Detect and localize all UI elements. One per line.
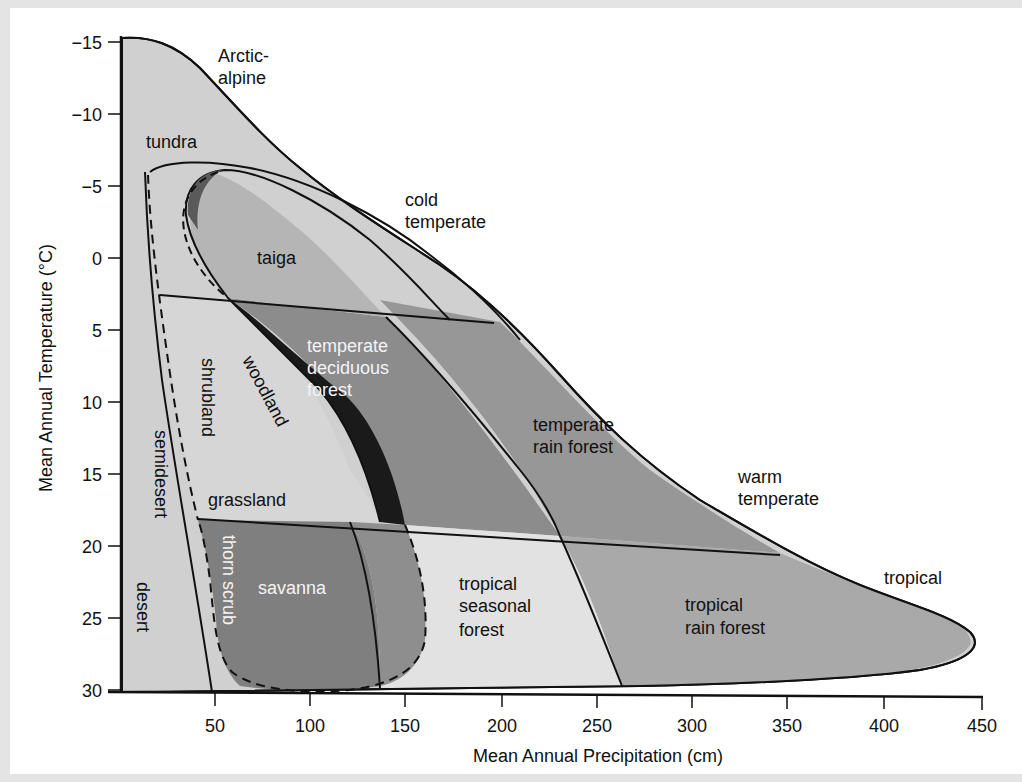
y-tick-label: 25 [82,609,102,629]
biome-diagram: −15 −10 −5 0 5 10 15 20 25 30 50 100 150… [0,0,1022,782]
x-axis-title: Mean Annual Precipitation (cm) [473,746,723,766]
x-tick-label: 50 [205,716,225,736]
label-thorn-scrub: thorn scrub [219,535,239,625]
y-tick-label: 30 [82,681,102,701]
label-tropical-rain-forest-1: tropical [685,595,743,615]
x-tick-label: 450 [967,716,997,736]
label-semidesert: semidesert [151,430,171,518]
label-savanna: savanna [258,578,327,598]
y-ticks [108,42,121,690]
region-tropical-rain-forest [560,536,971,686]
label-tropical-seasonal-forest-1: tropical [459,574,517,594]
label-cold-temperate-2: temperate [405,212,486,232]
label-taiga: taiga [257,248,297,268]
x-tick-label: 400 [869,716,899,736]
label-tropical-rain-forest-2: rain forest [685,618,765,638]
label-temperate-deciduous-forest-2: deciduous [307,358,389,378]
y-tick-label: 0 [92,249,102,269]
x-tick-label: 100 [295,716,325,736]
y-tick-label: 15 [82,465,102,485]
x-tick-label: 250 [582,716,612,736]
y-tick-label: 5 [92,321,102,341]
label-desert: desert [133,582,153,632]
y-tick-label: −5 [81,177,102,197]
x-tick-label: 200 [487,716,517,736]
y-tick-label: −15 [71,33,102,53]
y-tick-label: 10 [82,393,102,413]
label-warm-temperate-1: warm [737,467,782,487]
label-temperate-deciduous-forest-3: forest [307,380,352,400]
label-tropical-seasonal-forest-3: forest [459,620,504,640]
x-tick-label: 150 [390,716,420,736]
y-tick-label: −10 [71,105,102,125]
label-temperate-rain-forest-2: rain forest [533,437,613,457]
label-temperate-deciduous-forest-1: temperate [307,336,388,356]
label-tropical: tropical [884,568,942,588]
label-tundra: tundra [146,132,198,152]
x-axis [108,692,983,697]
y-axis-title: Mean Annual Temperature (°C) [36,244,56,492]
y-tick-labels: −15 −10 −5 0 5 10 15 20 25 30 [71,33,102,701]
label-shrubland: shrubland [198,358,218,437]
label-cold-temperate-1: cold [405,190,438,210]
label-tropical-seasonal-forest-2: seasonal [459,596,531,616]
label-arctic-alpine-1: Arctic- [218,46,269,66]
label-arctic-alpine-2: alpine [218,68,266,88]
x-tick-labels: 50 100 150 200 250 300 350 400 450 [205,716,997,736]
label-temperate-rain-forest-1: temperate [533,415,614,435]
x-tick-label: 300 [677,716,707,736]
x-tick-label: 350 [772,716,802,736]
y-tick-label: 20 [82,537,102,557]
label-warm-temperate-2: temperate [738,489,819,509]
label-grassland: grassland [208,490,286,510]
